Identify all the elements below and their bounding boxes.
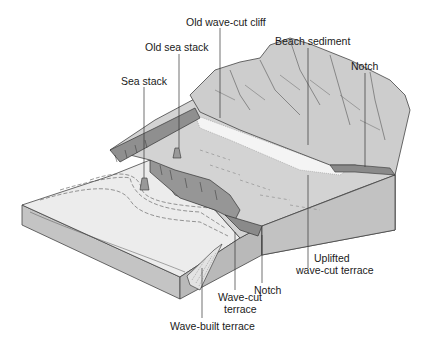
label-wave-built-terrace: Wave-built terrace [170, 320, 255, 332]
label-uplifted-terrace-line2: wave-cut terrace [296, 264, 374, 276]
label-sea-stack: Sea stack [121, 75, 167, 87]
label-beach-sediment: Beach sediment [275, 35, 350, 47]
label-old-wave-cut-cliff: Old wave-cut cliff [186, 16, 266, 28]
label-old-sea-stack: Old sea stack [145, 41, 209, 53]
label-notch-upper: Notch [351, 60, 378, 72]
label-wave-cut-terrace-line2: terrace [224, 303, 257, 315]
coastal-landforms-diagram [0, 0, 427, 339]
label-wave-cut-terrace-line1: Wave-cut [218, 291, 262, 303]
